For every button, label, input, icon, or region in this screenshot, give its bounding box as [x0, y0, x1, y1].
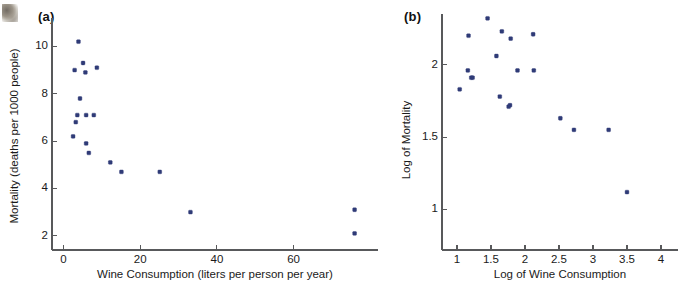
data-point — [81, 61, 85, 65]
data-point — [95, 66, 99, 70]
panel-a: (a) 0204060246810Wine Consumption (liter… — [0, 0, 390, 288]
y-tick-label: 4 — [42, 181, 49, 193]
data-point — [467, 34, 471, 38]
data-point — [92, 113, 96, 117]
y-axis-title: Log of Mortality — [400, 100, 412, 179]
scatter-plot-figure: (a) 0204060246810Wine Consumption (liter… — [0, 0, 700, 288]
x-tick-label: 1.5 — [483, 253, 499, 265]
data-point — [108, 161, 112, 165]
x-tick-label: 60 — [287, 253, 300, 265]
panel-b: (b) 11.522.533.5411.52Log of Wine Consum… — [390, 0, 700, 288]
y-axis-title: Mortality (deaths per 1000 people) — [8, 48, 20, 223]
data-point — [84, 113, 88, 117]
x-tick-label: 3.5 — [619, 253, 635, 265]
data-point — [83, 71, 87, 75]
data-point — [495, 54, 499, 58]
x-tick-label: 3 — [590, 253, 596, 265]
data-point — [71, 134, 75, 138]
data-point — [73, 68, 77, 72]
x-tick-label: 1 — [454, 253, 460, 265]
panel-b-plot: 11.522.533.5411.52Log of Wine Consumptio… — [390, 0, 700, 288]
data-point — [87, 151, 91, 155]
data-point — [558, 116, 562, 120]
y-tick-label: 8 — [42, 87, 48, 99]
y-tick-label: 1 — [432, 202, 438, 214]
x-axis-title: Wine Consumption (liters per person per … — [97, 268, 333, 280]
y-tick-label: 6 — [42, 134, 48, 146]
x-tick-label: 4 — [658, 253, 665, 265]
data-point — [498, 95, 502, 99]
x-axis-title: Log of Wine Consumption — [494, 268, 626, 280]
data-point — [353, 208, 357, 212]
y-tick-label: 1.5 — [422, 130, 438, 142]
data-point — [532, 69, 536, 73]
data-point — [531, 32, 535, 36]
x-tick-label: 40 — [211, 253, 224, 265]
data-point — [471, 76, 475, 80]
data-point — [189, 210, 193, 214]
panel-a-plot: 0204060246810Wine Consumption (liters pe… — [0, 0, 390, 288]
data-point — [509, 37, 513, 41]
data-point — [74, 120, 78, 124]
data-point — [466, 69, 470, 73]
data-point — [353, 232, 357, 236]
x-tick-label: 2 — [522, 253, 528, 265]
data-point — [625, 190, 629, 194]
data-point — [516, 69, 520, 73]
x-tick-label: 2.5 — [551, 253, 567, 265]
data-point — [607, 128, 611, 132]
x-tick-label: 20 — [134, 253, 147, 265]
data-point — [120, 170, 124, 174]
data-point — [158, 170, 162, 174]
y-tick-label: 2 — [432, 58, 438, 70]
y-tick-label: 10 — [35, 39, 48, 51]
data-point — [84, 142, 88, 146]
data-point — [500, 29, 504, 33]
data-point — [458, 87, 462, 91]
data-point — [486, 16, 490, 20]
data-point — [572, 128, 576, 132]
data-point — [77, 40, 81, 44]
y-tick-label: 2 — [42, 229, 48, 241]
data-point — [507, 105, 511, 109]
x-tick-label: 0 — [60, 253, 66, 265]
data-point — [75, 113, 79, 117]
data-point — [78, 97, 82, 101]
